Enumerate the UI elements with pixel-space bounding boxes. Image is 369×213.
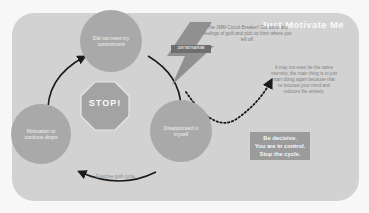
lightning-label: JUST MOTIVATE ME [172, 47, 210, 50]
cycle-node-disappointed: Disappointed in myself [150, 100, 212, 162]
callout-line: Be decisive. [250, 134, 310, 142]
cycle-node-motivation-drops: Motivation to continue drops [11, 104, 71, 164]
callout-line: You are in control. [250, 142, 310, 150]
callout-box: Be decisive. You are in control. Stop th… [250, 132, 310, 160]
intensity-note: It may not even be the same intensity, t… [270, 65, 338, 95]
stop-sign-label: STOP! [81, 98, 129, 108]
cycle-node-commitment: Did not meet my commitment [80, 10, 142, 72]
callout-line: Stop the cycle. [250, 150, 310, 158]
cycle-caption: Exercise guilt cycle. [76, 174, 156, 179]
circuit-breaker-note: The JMM Circuit Breaker! Set aside any f… [200, 25, 295, 43]
